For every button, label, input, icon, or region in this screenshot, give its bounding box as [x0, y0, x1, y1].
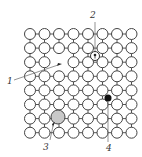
- lattice-atom: [39, 99, 50, 110]
- label-3: 3: [43, 142, 49, 152]
- lattice-atom: [97, 85, 108, 96]
- lattice-atom: [25, 43, 36, 54]
- lattice-atom: [126, 29, 137, 40]
- lattice-atom: [112, 113, 123, 124]
- lattice-atom: [83, 71, 94, 82]
- lattice-atom: [25, 127, 36, 138]
- lattice-atom: [112, 85, 123, 96]
- vacancy-arrow-icon: [57, 63, 62, 66]
- lattice-atom: [126, 99, 137, 110]
- lattice-atom: [126, 57, 137, 68]
- lattice-atom: [83, 29, 94, 40]
- interstitial-impurity-atom: [105, 95, 112, 102]
- lattice-atom: [112, 29, 123, 40]
- lattice-atom: [68, 57, 79, 68]
- lattice-atom: [25, 57, 36, 68]
- lattice-atom: [68, 85, 79, 96]
- lattice-atom: [25, 113, 36, 124]
- lattice-atom: [126, 71, 137, 82]
- lattice-atom: [126, 127, 137, 138]
- lattice-atom: [97, 43, 108, 54]
- leader-1: [14, 65, 58, 80]
- lattice-atom: [68, 113, 79, 124]
- lattice-atom: [39, 85, 50, 96]
- lattice-atom: [25, 29, 36, 40]
- label-1: 1: [7, 76, 13, 86]
- lattice-atom: [97, 113, 108, 124]
- lattice-atom: [83, 99, 94, 110]
- lattice-atom: [25, 85, 36, 96]
- lattice-atom: [112, 57, 123, 68]
- lattice-atom: [39, 71, 50, 82]
- lattice-atom: [126, 85, 137, 96]
- lattice-atom: [83, 85, 94, 96]
- lattice-atom: [39, 29, 50, 40]
- lattice-atom: [54, 29, 65, 40]
- lattice-atom: [54, 127, 65, 138]
- substitutional-atom: [51, 110, 65, 127]
- lattice-atom: [68, 71, 79, 82]
- lattice-atom: [68, 43, 79, 54]
- label-4: 4: [105, 143, 112, 153]
- lattice-atom: [25, 99, 36, 110]
- lattice-atom: [54, 71, 65, 82]
- lattice-atom: [112, 127, 123, 138]
- lattice-atom: [39, 43, 50, 54]
- lattice-atom: [25, 71, 36, 82]
- lattice-atom: [68, 127, 79, 138]
- lattice-diagram: 1 2 3 4: [0, 0, 142, 157]
- lattice-atom: [112, 99, 123, 110]
- lattice-atom: [39, 57, 50, 68]
- lattice-atom: [54, 43, 65, 54]
- lattice-atom: [97, 71, 108, 82]
- lattice-atom: [126, 43, 137, 54]
- label-2: 2: [89, 10, 96, 20]
- lattice-atoms: [25, 29, 138, 139]
- lattice-atom: [97, 29, 108, 40]
- interstitial-atom: [91, 52, 100, 61]
- lattice-atom: [39, 113, 50, 124]
- lattice-atom: [112, 71, 123, 82]
- lattice-atom: [83, 43, 94, 54]
- lattice-atom: [83, 127, 94, 138]
- lattice-atom: [97, 127, 108, 138]
- lattice-atom: [54, 99, 65, 110]
- lattice-atom: [126, 113, 137, 124]
- lattice-atom: [54, 85, 65, 96]
- lattice-atom: [39, 127, 50, 138]
- lattice-atom: [68, 99, 79, 110]
- lattice-atom: [68, 29, 79, 40]
- lattice-atom: [112, 43, 123, 54]
- lattice-atom: [83, 113, 94, 124]
